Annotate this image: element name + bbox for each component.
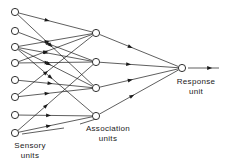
label-association-line1: Association [86, 124, 130, 133]
label-sensory-line1: Sensory [14, 141, 45, 150]
edge-a2-r1 [100, 62, 178, 67]
node-s8 [11, 129, 18, 136]
label-sensory-line2: units [21, 151, 39, 160]
edge-s4-a1 [19, 34, 92, 61]
edge-a1-r1 [100, 35, 179, 67]
arrowhead-s1-a1 [44, 18, 49, 22]
arrowhead-a4-r1 [129, 95, 134, 99]
arrowhead-s7-a4 [46, 113, 51, 117]
node-a3 [92, 84, 99, 91]
output-arrowhead [207, 66, 212, 70]
arrowhead-s6-a3 [44, 92, 49, 96]
edge-s2-a2 [19, 32, 93, 60]
network-svg: Sensory units Association units Response… [0, 0, 228, 166]
edge-s6-a3 [19, 88, 92, 96]
node-a4 [92, 112, 99, 119]
node-s3 [11, 43, 18, 50]
perceptron-diagram: Sensory units Association units Response… [0, 0, 228, 166]
label-response-line2: unit [189, 87, 204, 96]
node-s2 [11, 27, 18, 34]
edge-s1-a1 [19, 13, 92, 32]
edge-s8-a2 [18, 65, 93, 131]
arrowhead-s5-a3 [47, 81, 52, 85]
sensory-leader [22, 128, 64, 134]
edges-group [18, 13, 219, 132]
node-s6 [11, 93, 18, 100]
leader-lines-group [22, 119, 96, 134]
node-s4 [11, 59, 18, 66]
nodes-group [11, 8, 185, 136]
node-a1 [92, 29, 99, 36]
label-response-line1: Response [177, 77, 216, 86]
node-s5 [11, 76, 18, 83]
edge-s8-a4 [19, 117, 92, 132]
labels-group: Sensory units Association units Response… [14, 77, 215, 160]
node-s7 [11, 111, 18, 118]
node-s1 [11, 8, 18, 15]
edge-s7-a4 [19, 115, 92, 116]
arrowhead-a1-r1 [127, 44, 132, 48]
arrowhead-s8-a4 [46, 125, 51, 129]
edge-a3-r1 [100, 69, 178, 87]
edge-a4-r1 [99, 70, 178, 114]
node-r1 [178, 64, 185, 71]
arrowhead-a2-r1 [126, 62, 131, 66]
label-association-line2: units [99, 134, 117, 143]
edge-s4-a2 [19, 62, 92, 63]
node-a2 [92, 58, 99, 65]
